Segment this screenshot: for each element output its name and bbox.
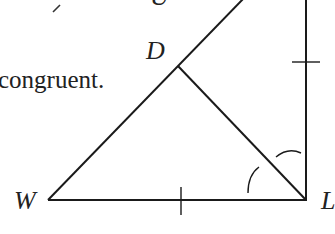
- label-W: W: [14, 188, 36, 214]
- label-D: D: [146, 38, 165, 64]
- angle-arc-DL-vertical: [276, 151, 301, 157]
- label-L: L: [321, 188, 335, 214]
- partial-arrow-stroke: [53, 5, 60, 12]
- segment-WD-extended: [48, 0, 244, 200]
- caption-text: congruent.: [0, 66, 104, 94]
- angle-arc-WLD: [248, 167, 259, 193]
- label-top-partial: U: [150, 0, 169, 10]
- segment-DL: [178, 66, 306, 200]
